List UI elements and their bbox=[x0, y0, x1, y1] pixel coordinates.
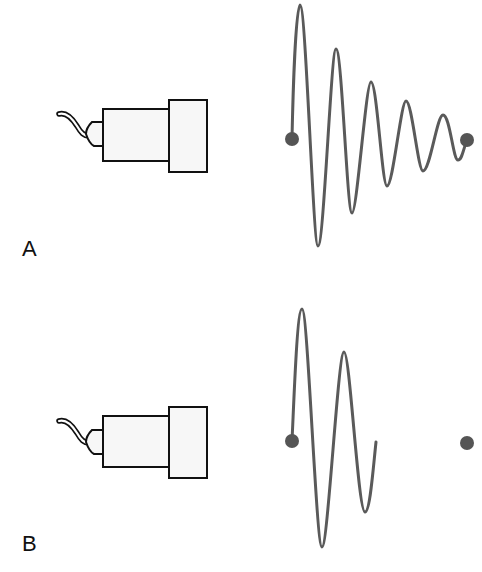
cable-b bbox=[59, 421, 89, 443]
transducer-body-b bbox=[103, 416, 169, 467]
backing-block-b bbox=[169, 407, 207, 478]
cable-a bbox=[59, 114, 89, 136]
diagram-canvas bbox=[0, 0, 482, 572]
backing-block-a bbox=[169, 100, 207, 172]
pulse-line-a bbox=[292, 5, 467, 246]
start-marker-a bbox=[285, 132, 299, 146]
end-marker-a bbox=[460, 133, 474, 147]
connector-b bbox=[86, 430, 103, 454]
waveform-b bbox=[285, 309, 474, 547]
transducer-a bbox=[59, 100, 207, 172]
start-marker-b bbox=[285, 434, 299, 448]
transducer-body-a bbox=[103, 109, 169, 161]
end-marker-b bbox=[460, 436, 474, 450]
waveform-a bbox=[285, 5, 474, 246]
transducer-b bbox=[59, 407, 207, 478]
connector-a bbox=[86, 122, 103, 146]
pulse-line-b bbox=[292, 309, 376, 547]
panel-label-a: A bbox=[22, 238, 37, 260]
panel-label-b: B bbox=[22, 533, 37, 555]
